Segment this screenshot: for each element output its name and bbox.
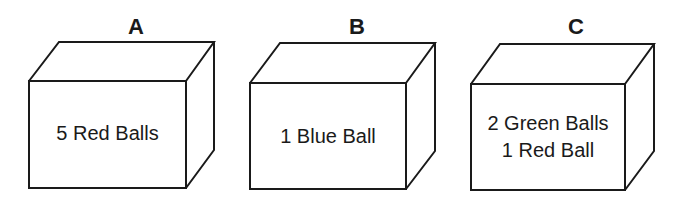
content-line: 5 Red Balls: [29, 120, 186, 147]
cube-b-icon: [220, 0, 440, 211]
content-line: 1 Blue Ball: [250, 123, 406, 150]
box-contents: 5 Red Balls: [29, 120, 186, 147]
box-label: B: [337, 14, 377, 40]
box-b: B 1 Blue Ball: [220, 0, 440, 211]
content-line: 2 Green Balls: [471, 110, 625, 137]
box-a: A 5 Red Balls: [0, 0, 220, 211]
content-line: 1 Red Ball: [471, 137, 625, 164]
box-contents: 2 Green Balls 1 Red Ball: [471, 110, 625, 164]
box-contents: 1 Blue Ball: [250, 123, 406, 150]
box-c: C 2 Green Balls 1 Red Ball: [440, 0, 660, 211]
box-label: A: [116, 14, 156, 40]
box-label: C: [556, 14, 596, 40]
cube-a-icon: [0, 0, 220, 211]
